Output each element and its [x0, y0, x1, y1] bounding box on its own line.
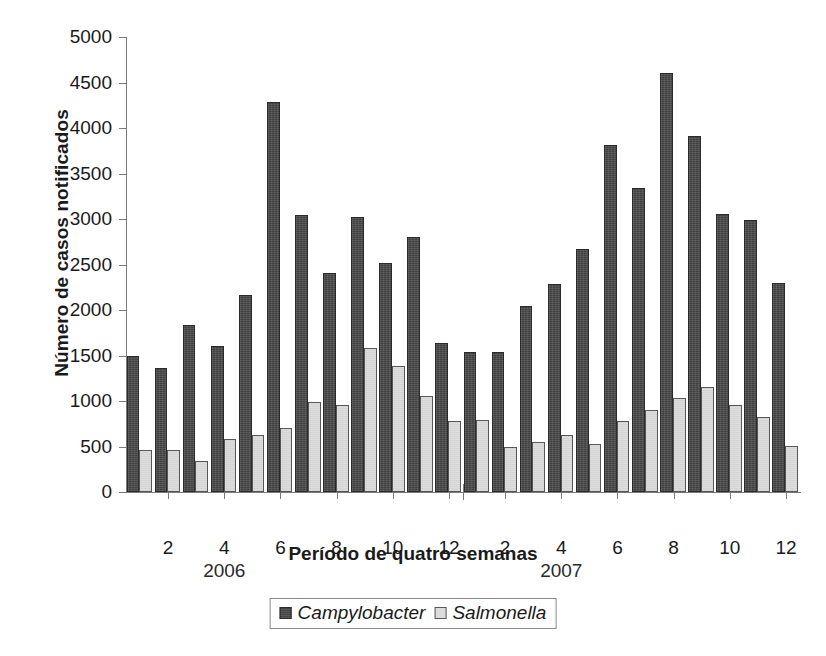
bar-campylobacter — [772, 283, 785, 492]
bar-campylobacter — [323, 273, 336, 492]
y-axis-tick: 5000 — [119, 37, 126, 38]
bar-salmonella — [673, 398, 686, 492]
bar-campylobacter — [267, 102, 280, 492]
y-axis-tick: 2000 — [119, 310, 126, 311]
y-axis-tick-label: 5000 — [70, 26, 112, 48]
bar-campylobacter — [464, 352, 477, 492]
bar-salmonella — [364, 348, 377, 492]
y-axis-tick: 3500 — [119, 174, 126, 175]
bar-campylobacter — [716, 214, 729, 492]
bar-salmonella — [195, 461, 208, 492]
y-axis-tick: 1000 — [119, 401, 126, 402]
bar-campylobacter — [211, 346, 224, 493]
bar-salmonella — [392, 366, 405, 492]
bar-campylobacter — [379, 263, 392, 492]
y-axis-tick: 4000 — [119, 128, 126, 129]
chart-figure: Número de casos notificados 500045004000… — [0, 0, 826, 656]
y-axis-tick-label: 500 — [80, 436, 112, 458]
bar-campylobacter — [239, 295, 252, 492]
x-axis-tick — [561, 492, 562, 499]
bar-salmonella — [224, 439, 237, 492]
bar-salmonella — [504, 447, 517, 492]
y-axis-tick-label: 0 — [101, 481, 112, 503]
bar-campylobacter — [351, 217, 364, 492]
bar-campylobacter — [576, 249, 589, 492]
x-axis-title: Período de quatro semanas — [0, 543, 826, 565]
year-group-label: 2006 — [203, 560, 245, 582]
x-axis-tick — [674, 492, 675, 499]
bar-salmonella — [561, 435, 574, 492]
bar-salmonella — [757, 417, 770, 492]
bar-campylobacter — [604, 145, 617, 492]
x-axis-tick — [337, 492, 338, 499]
bar-salmonella — [476, 420, 489, 492]
bar-salmonella — [420, 396, 433, 492]
bar-salmonella — [701, 387, 714, 492]
bar-campylobacter — [660, 73, 673, 493]
bar-salmonella — [280, 428, 293, 492]
x-axis-tick — [168, 492, 169, 499]
x-axis-tick — [224, 492, 225, 499]
bar-campylobacter — [407, 237, 420, 492]
bar-campylobacter — [688, 136, 701, 492]
y-axis-tick-label: 3500 — [70, 163, 112, 185]
bar-salmonella — [448, 421, 461, 492]
y-axis-tick: 3000 — [119, 219, 126, 220]
bar-salmonella — [336, 405, 349, 492]
bar-salmonella — [167, 450, 180, 492]
x-axis-tick — [280, 492, 281, 499]
bar-campylobacter — [744, 220, 757, 492]
y-axis-tick-label: 3000 — [70, 208, 112, 230]
y-axis-tick: 2500 — [119, 265, 126, 266]
bar-campylobacter — [435, 343, 448, 492]
bar-salmonella — [785, 446, 798, 492]
x-axis-tick — [393, 492, 394, 499]
y-axis-tick-label: 1000 — [70, 390, 112, 412]
bar-salmonella — [532, 442, 545, 492]
year-group-label: 2007 — [540, 560, 582, 582]
legend-label-campylobacter: Campylobacter — [298, 602, 426, 624]
bar-campylobacter — [492, 352, 505, 492]
legend-entry-salmonella: Salmonella — [434, 602, 546, 624]
legend-label-salmonella: Salmonella — [452, 602, 546, 624]
bar-campylobacter — [632, 188, 645, 492]
bar-salmonella — [252, 435, 265, 492]
chart-legend: Campylobacter Salmonella — [270, 598, 557, 629]
x-axis-tick — [449, 492, 450, 499]
bar-salmonella — [589, 444, 602, 492]
legend-swatch-salmonella-icon — [434, 607, 446, 619]
x-axis-tick — [786, 492, 787, 499]
bar-campylobacter — [183, 325, 196, 492]
legend-swatch-campylobacter-icon — [280, 607, 292, 619]
y-axis-tick: 500 — [119, 447, 126, 448]
bar-campylobacter — [520, 306, 533, 492]
bar-campylobacter — [155, 368, 168, 492]
y-axis-tick: 1500 — [119, 356, 126, 357]
x-axis-tick — [617, 492, 618, 499]
bar-salmonella — [729, 405, 742, 492]
bar-salmonella — [139, 450, 152, 492]
legend-entry-campylobacter: Campylobacter — [280, 602, 426, 624]
y-axis-tick-label: 4000 — [70, 117, 112, 139]
plot-area: 5000450040003500300025002000150010005000… — [126, 37, 800, 492]
bar-campylobacter — [548, 284, 561, 492]
y-axis-tick-label: 4500 — [70, 72, 112, 94]
y-axis-tick-label: 2000 — [70, 299, 112, 321]
y-axis-tick: 4500 — [119, 83, 126, 84]
bar-campylobacter — [295, 215, 308, 492]
y-axis-tick-label: 2500 — [70, 254, 112, 276]
x-axis-tick — [505, 492, 506, 499]
y-axis-tick-label: 1500 — [70, 345, 112, 367]
bar-salmonella — [617, 421, 630, 492]
x-axis-year-separator — [463, 484, 464, 500]
y-axis-tick: 0 — [119, 492, 126, 493]
bar-salmonella — [308, 402, 321, 492]
x-axis-tick — [730, 492, 731, 499]
bar-salmonella — [645, 410, 658, 492]
bar-campylobacter — [127, 356, 140, 493]
